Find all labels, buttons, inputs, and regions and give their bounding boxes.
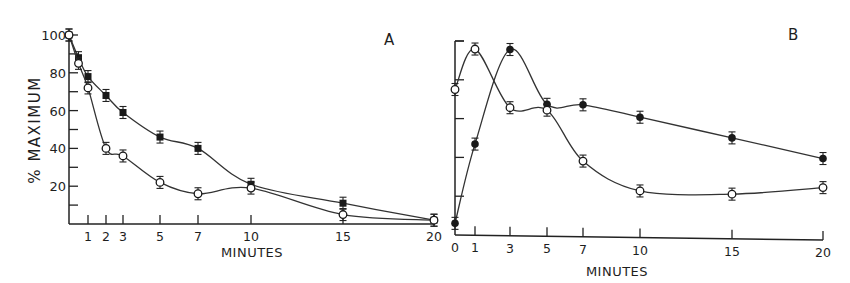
panel-a-y-ticks: 20406080100: [41, 28, 78, 205]
x-tick-label: 5: [156, 229, 164, 244]
x-tick-label: 7: [579, 242, 587, 257]
data-point-filled-square: [120, 109, 127, 116]
y-tick-label: 40: [49, 141, 66, 156]
data-point-open-circle: [471, 45, 479, 53]
data-point-open-circle: [728, 190, 736, 198]
x-tick-label: 20: [815, 245, 831, 260]
data-point-open-circle: [819, 184, 827, 192]
y-tick-label: 80: [49, 66, 66, 81]
data-point-filled-circle: [579, 101, 587, 109]
panel-b-x-ticks: 01357101520: [451, 226, 831, 260]
x-tick-label: 7: [194, 229, 202, 244]
x-tick-label: 3: [119, 229, 127, 244]
panel-a-label: A: [384, 31, 395, 49]
panel-a-x-axis-label: MINUTES: [221, 245, 283, 260]
panel-b-x-axis-label: MINUTES: [586, 264, 648, 279]
x-tick-label: 20: [426, 229, 442, 244]
data-point-open-circle: [84, 84, 92, 92]
panel-b-series: [451, 43, 827, 229]
series-curve: [455, 49, 823, 195]
data-point-open-circle: [247, 184, 255, 192]
data-point-open-circle: [543, 106, 551, 114]
data-point-filled-circle: [451, 220, 459, 228]
data-point-filled-square: [157, 134, 164, 141]
x-tick-label: 15: [724, 244, 740, 259]
data-point-open-circle: [451, 86, 459, 94]
data-point-open-circle: [119, 152, 127, 160]
data-point-filled-circle: [471, 140, 479, 148]
data-point-filled-circle: [728, 134, 736, 142]
x-tick-label: 5: [543, 241, 551, 256]
data-point-filled-square: [195, 145, 202, 152]
y-tick-label: 60: [49, 104, 66, 119]
x-tick-label: 3: [506, 241, 514, 256]
panel-b-label: B: [788, 26, 798, 44]
x-tick-label: 0: [451, 240, 459, 255]
data-point-open-circle: [102, 145, 110, 153]
panel-b: B 01357101520 MINUTES: [451, 26, 831, 279]
data-point-filled-circle: [819, 155, 827, 163]
x-tick-label: 10: [243, 229, 259, 244]
y-tick-label: 20: [49, 179, 66, 194]
x-tick-label: 1: [84, 229, 92, 244]
y-axis-label: % MAXIMUM: [26, 76, 44, 183]
data-point-filled-circle: [636, 113, 644, 121]
x-tick-label: 15: [335, 229, 351, 244]
data-point-open-circle: [65, 31, 73, 39]
figure: % MAXIMUM A 20406080100 12357101520 MINU…: [0, 0, 850, 283]
data-point-filled-square: [340, 200, 347, 207]
y-tick-label: 100: [41, 28, 66, 43]
data-point-open-circle: [339, 211, 347, 219]
data-point-open-circle: [430, 216, 438, 224]
data-point-filled-circle: [506, 46, 514, 54]
data-point-open-circle: [506, 104, 514, 112]
data-point-open-circle: [75, 60, 83, 68]
x-tick-label: 1: [471, 240, 479, 255]
data-point-open-circle: [156, 179, 164, 187]
x-tick-label: 2: [102, 229, 110, 244]
panel-a-series: [65, 29, 438, 226]
x-tick-label: 10: [632, 243, 648, 258]
panel-a: A 20406080100 12357101520 MINUTES: [41, 28, 442, 260]
data-point-open-circle: [579, 157, 587, 165]
data-point-open-circle: [636, 187, 644, 195]
panel-b-x-axis: [455, 235, 823, 240]
data-point-open-circle: [194, 190, 202, 198]
data-point-filled-square: [103, 92, 110, 99]
